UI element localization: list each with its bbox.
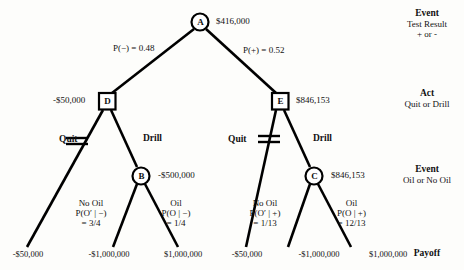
oil-left-prob: P(O | −) — [150, 208, 202, 218]
oil-right-prob: P(O | +) — [324, 208, 379, 218]
stage-label-event-oil: Event Oil or No Oil — [393, 164, 461, 185]
edge-a-to-d — [112, 29, 194, 93]
stage-3-head: Event — [393, 164, 461, 175]
no-oil-left-value: = 3/4 — [62, 218, 120, 228]
branch-label-quit-left: Quit — [59, 134, 77, 145]
branch-label-test-negative: P(−) = 0.48 — [113, 43, 154, 53]
oil-right-name: Oil — [324, 198, 379, 208]
payoff-value-3: $1,000,000 — [150, 250, 216, 260]
payoff-value-1: -$50,000 — [0, 250, 56, 260]
oil-left-value: = 1/4 — [150, 218, 202, 228]
branch-label-test-positive: P(+) = 0.52 — [243, 45, 284, 55]
branch-label-quit-right: Quit — [228, 134, 246, 145]
node-e-label: E — [274, 96, 287, 106]
stage-2-head: Act — [393, 88, 461, 99]
no-oil-right-prob: P(O′ | +) — [236, 208, 294, 218]
payoff-value-2: -$1,000,000 — [73, 250, 145, 260]
stage-1-sub2: + or - — [393, 29, 461, 39]
stage-4-head: Payoff — [393, 248, 461, 259]
node-c-label: C — [308, 171, 321, 181]
branch-label-drill-right: Drill — [313, 133, 332, 144]
no-oil-left-prob: P(O′ | −) — [62, 208, 120, 218]
stage-1-head: Event — [393, 8, 461, 19]
payoff-value-4: -$50,000 — [219, 250, 275, 260]
node-b-label: B — [135, 171, 148, 181]
branch-label-oil-left: Oil P(O | −) = 1/4 — [150, 198, 202, 228]
branch-label-no-oil-left: No Oil P(O′ | −) = 3/4 — [62, 198, 120, 228]
node-b-value: -$500,000 — [158, 170, 195, 180]
oil-left-name: Oil — [150, 198, 202, 208]
stage-label-event-test: Event Test Result + or - — [393, 8, 461, 39]
node-a-value: $416,000 — [216, 16, 250, 26]
node-a-label: A — [194, 17, 207, 27]
edge-a-to-e — [206, 29, 276, 93]
stage-label-payoff: Payoff — [393, 248, 461, 259]
no-oil-right-value: = 1/13 — [236, 218, 294, 228]
edge-d-drill — [111, 110, 137, 167]
no-oil-right-name: No Oil — [236, 198, 294, 208]
edge-e-drill — [284, 110, 310, 167]
node-c-value: $846,153 — [331, 170, 365, 180]
no-oil-left-name: No Oil — [62, 198, 120, 208]
node-e-value: $846,153 — [296, 95, 330, 105]
stage-1-sub1: Test Result — [393, 19, 461, 29]
branch-label-oil-right: Oil P(O | +) = 12/13 — [324, 198, 379, 228]
stage-3-sub1: Oil or No Oil — [393, 175, 461, 185]
payoff-value-5: -$1,000,000 — [283, 250, 355, 260]
node-d-value: -$50,000 — [53, 95, 85, 105]
node-d-label: D — [101, 96, 114, 106]
branch-label-no-oil-right: No Oil P(O′ | +) = 1/13 — [236, 198, 294, 228]
stage-label-act: Act Quit or Drill — [393, 88, 461, 109]
branch-label-drill-left: Drill — [143, 133, 162, 144]
stage-2-sub1: Quit or Drill — [393, 99, 461, 109]
oil-right-value: = 12/13 — [324, 218, 379, 228]
